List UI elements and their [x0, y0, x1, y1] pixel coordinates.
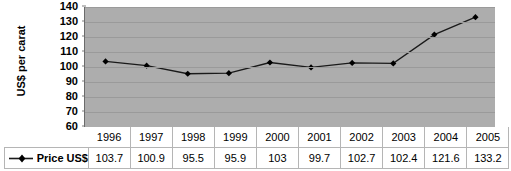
data-table: 1996199719981999200020012002200320042005… — [4, 127, 509, 169]
price-per-carat-line-chart: US$ per carat 14013012011010090807060 19… — [0, 0, 511, 171]
data-point-1998 — [185, 71, 191, 77]
series-line-path — [106, 17, 476, 74]
table-header-year-1997: 1997 — [130, 127, 172, 148]
y-axis-tick-130: 130 — [60, 16, 78, 27]
gridline-140 — [85, 7, 495, 8]
y-axis-tick-labels: 14013012011010090807060 — [52, 6, 80, 127]
table-value-1997: 100.9 — [130, 148, 172, 169]
data-point-1999 — [226, 70, 232, 76]
data-point-2002 — [349, 60, 355, 66]
table-row-years: 1996199719981999200020012002200320042005 — [5, 127, 509, 148]
table-header-year-2000: 2000 — [256, 127, 298, 148]
table-value-2002: 102.7 — [341, 148, 383, 169]
y-axis-tick-80: 80 — [66, 91, 78, 102]
table-header-year-2005: 2005 — [467, 127, 509, 148]
table-value-2004: 121.6 — [425, 148, 467, 169]
y-axis-tick-100: 100 — [60, 61, 78, 72]
table-row-values: Price US$ 103.7100.995.595.910399.7102.7… — [5, 148, 509, 169]
table-header-year-1999: 1999 — [214, 127, 256, 148]
table-value-2003: 102.4 — [383, 148, 425, 169]
y-axis-tick-70: 70 — [66, 106, 78, 117]
y-axis-tick-140: 140 — [60, 1, 78, 12]
legend-label-price-us: Price US$ — [37, 152, 88, 164]
legend-line-marker-icon — [9, 153, 33, 164]
table-value-1999: 95.9 — [214, 148, 256, 169]
table-value-2001: 99.7 — [298, 148, 340, 169]
y-axis-tick-120: 120 — [60, 31, 78, 42]
table-header-blank-cell — [5, 127, 89, 148]
y-axis-tick-110: 110 — [60, 46, 78, 57]
data-point-2000 — [267, 59, 273, 65]
data-point-1996 — [102, 58, 108, 64]
y-axis-tick-90: 90 — [66, 76, 78, 87]
table-header-year-2004: 2004 — [425, 127, 467, 148]
data-point-2005 — [472, 14, 478, 20]
table-value-1996: 103.7 — [89, 148, 131, 169]
gridline-70 — [85, 112, 495, 113]
plot-area — [84, 7, 495, 127]
table-header-year-1998: 1998 — [172, 127, 214, 148]
table-value-2000: 103 — [256, 148, 298, 169]
table-header-year-2003: 2003 — [383, 127, 425, 148]
gridline-130 — [85, 22, 495, 23]
table-value-1998: 95.5 — [172, 148, 214, 169]
gridline-90 — [85, 82, 495, 83]
table-header-year-2002: 2002 — [341, 127, 383, 148]
table-header-year-2001: 2001 — [298, 127, 340, 148]
table-header-year-1996: 1996 — [89, 127, 131, 148]
gridline-110 — [85, 52, 495, 53]
gridline-120 — [85, 37, 495, 38]
y-axis-title: US$ per carat — [15, 1, 27, 121]
legend-entry-price-us: Price US$ — [5, 148, 89, 169]
gridline-80 — [85, 97, 495, 98]
table-value-2005: 133.2 — [467, 148, 509, 169]
gridline-100 — [85, 67, 495, 68]
